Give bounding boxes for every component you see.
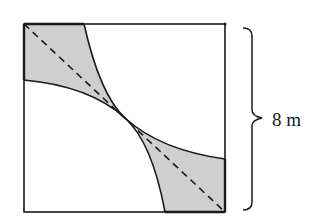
dashed-diagonal (24, 24, 225, 212)
geometry-figure: 8 m (0, 0, 324, 222)
corner-dot-top-right (224, 23, 227, 26)
arc-lower (24, 80, 165, 212)
shaded-region-top-left (24, 24, 125, 118)
dimension-brace (243, 28, 262, 210)
dimension-label: 8 m (272, 109, 301, 130)
